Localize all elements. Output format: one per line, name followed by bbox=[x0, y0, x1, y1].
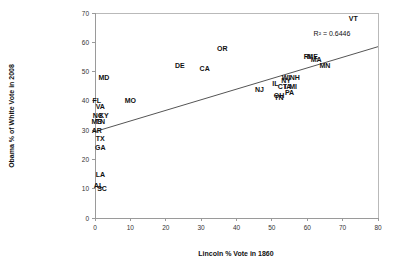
x-tick-label: 60 bbox=[304, 224, 312, 231]
regression-trend-line bbox=[95, 47, 378, 132]
y-tick-label: 10 bbox=[82, 185, 90, 192]
state-point-label: DE bbox=[175, 62, 185, 69]
x-tick-label: 50 bbox=[268, 224, 276, 231]
y-tick-label: 70 bbox=[82, 10, 90, 17]
x-tick-label: 40 bbox=[233, 224, 241, 231]
y-tick-label: 60 bbox=[82, 39, 90, 46]
state-point-label: TX bbox=[96, 135, 105, 142]
chart-canvas: 010203040506070 01020304050607080 MDFLMO… bbox=[0, 0, 398, 264]
state-point-label: SC bbox=[97, 185, 107, 192]
x-tick-label: 0 bbox=[93, 224, 97, 231]
r-squared-annotation: R² = 0.6446 bbox=[314, 30, 351, 37]
data-point-labels: MDFLMOVANCKYMSTNARTXGALAALSCDECAORNJILOH… bbox=[92, 15, 359, 192]
state-point-label: VT bbox=[349, 15, 359, 22]
scatter-chart: 010203040506070 01020304050607080 MDFLMO… bbox=[0, 0, 398, 264]
state-point-label: NJ bbox=[255, 86, 264, 93]
y-tick-label: 0 bbox=[85, 215, 89, 222]
plot-frame bbox=[95, 13, 378, 218]
trend-line bbox=[95, 47, 378, 132]
state-point-label: VA bbox=[96, 103, 105, 110]
state-point-label: TN bbox=[96, 118, 105, 125]
x-axis-ticks: 01020304050607080 bbox=[93, 218, 382, 231]
y-tick-label: 40 bbox=[82, 97, 90, 104]
x-tick-label: 70 bbox=[339, 224, 347, 231]
state-point-label: CA bbox=[200, 65, 210, 72]
state-point-label: AR bbox=[92, 127, 102, 134]
state-point-label: TN bbox=[274, 94, 283, 101]
y-tick-label: 20 bbox=[82, 156, 90, 163]
x-tick-label: 80 bbox=[374, 224, 382, 231]
x-tick-label: 30 bbox=[198, 224, 206, 231]
state-point-label: MD bbox=[98, 74, 109, 81]
state-point-label: MO bbox=[125, 97, 137, 104]
state-point-label: OR bbox=[217, 45, 228, 52]
state-point-label: MN bbox=[319, 62, 330, 69]
y-tick-label: 30 bbox=[82, 127, 90, 134]
state-point-label: NH bbox=[290, 74, 300, 81]
state-point-label: PA bbox=[285, 89, 294, 96]
y-tick-label: 50 bbox=[82, 68, 90, 75]
x-tick-label: 20 bbox=[162, 224, 170, 231]
y-axis-title: Obama % of White Vote in 2008 bbox=[8, 64, 15, 168]
state-point-label: LA bbox=[96, 171, 105, 178]
state-point-label: GA bbox=[95, 144, 106, 151]
x-tick-label: 10 bbox=[127, 224, 135, 231]
x-axis-title: Lincoln % Vote in 1860 bbox=[198, 250, 273, 257]
